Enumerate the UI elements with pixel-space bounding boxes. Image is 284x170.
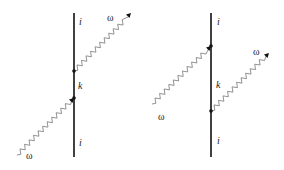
left-feynman-diagram: i ω k i ω: [17, 12, 131, 161]
label-outgoing-photon: ω: [107, 12, 114, 23]
label-intermediate-state: k: [216, 79, 221, 90]
vertex-dot: [209, 44, 213, 48]
right-feynman-diagram: i k ω ω i: [152, 13, 269, 157]
label-top-state: i: [79, 16, 82, 27]
vertex-dot: [209, 109, 213, 113]
label-bottom-state: i: [217, 135, 220, 146]
label-top-state: i: [217, 16, 220, 27]
outgoing-photon-wavy-line: [74, 17, 128, 71]
label-outgoing-photon: ω: [253, 46, 260, 57]
incoming-photon-wavy-line: [17, 100, 72, 155]
feynman-diagrams-canvas: i ω k i ω i k ω ω i: [0, 0, 284, 170]
vertex-dot: [72, 96, 76, 100]
label-intermediate-state: k: [78, 80, 83, 91]
arrow-icon: [264, 53, 269, 58]
label-incoming-photon: ω: [158, 111, 165, 122]
label-bottom-state: i: [79, 137, 82, 148]
vertex-dot: [72, 69, 76, 73]
label-incoming-photon: ω: [26, 150, 33, 161]
incoming-photon-wavy-line: [152, 48, 209, 104]
